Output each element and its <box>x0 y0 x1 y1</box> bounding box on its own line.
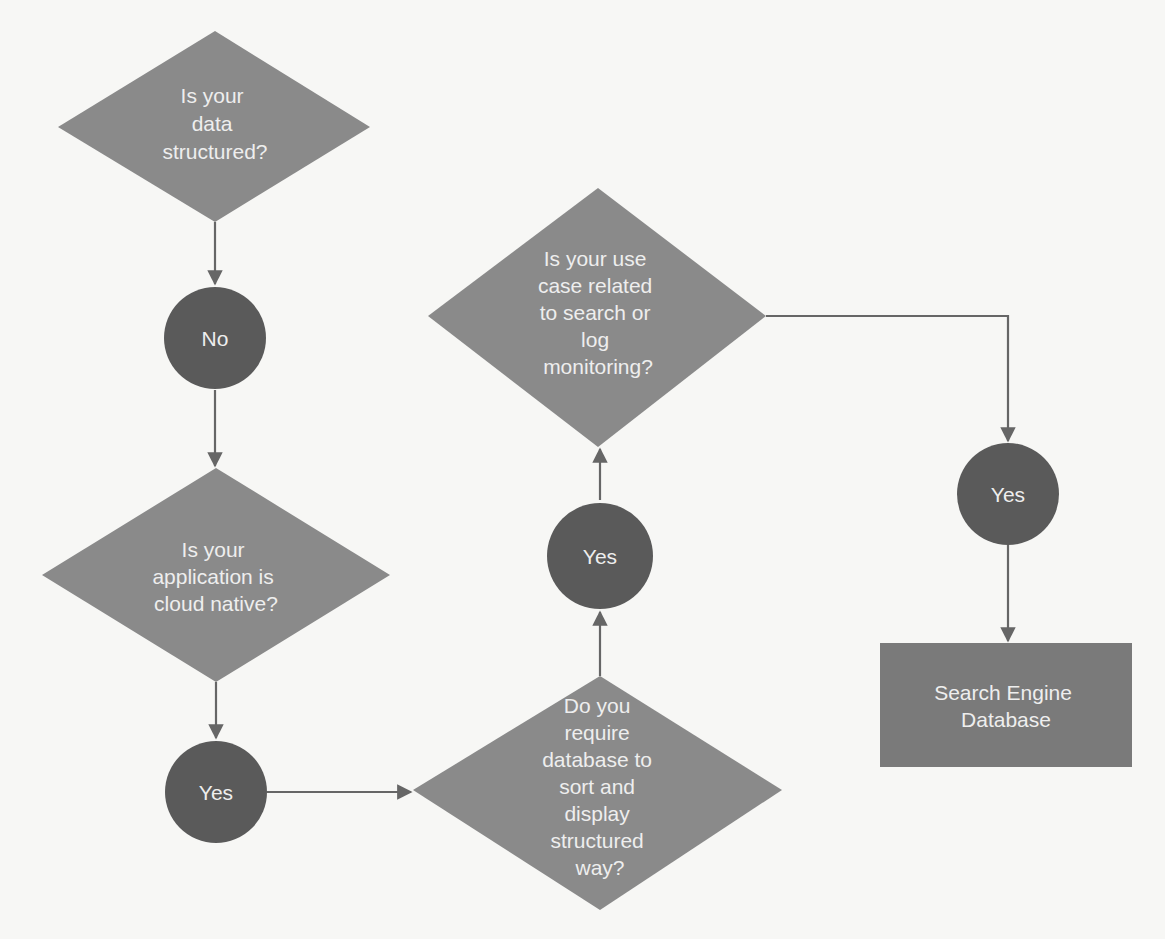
decision-text-line: structured? <box>162 140 267 163</box>
answer-yes-sort-display[interactable]: Yes <box>547 503 653 609</box>
edge-search-to-yes <box>766 316 1008 441</box>
decision-text-line: way? <box>574 856 624 879</box>
answer-label: No <box>202 327 229 350</box>
result-text-line: Database <box>961 708 1051 731</box>
decision-cloud-native[interactable]: Is your application is cloud native? <box>42 468 390 682</box>
decision-text-line: structured <box>550 829 643 852</box>
answer-yes-cloud-native[interactable]: Yes <box>165 741 267 843</box>
decision-text-line: Is your <box>182 538 245 561</box>
answer-label: Yes <box>583 545 617 568</box>
svg-text:Is your use case related: Is your use case related to search or lo… <box>538 247 658 378</box>
decision-data-structured[interactable]: Is your data structured? <box>58 31 370 222</box>
decision-text-line: Is your <box>181 84 244 107</box>
decision-text-line: case related <box>538 274 652 297</box>
result-box <box>880 643 1132 767</box>
decision-sort-display[interactable]: Do you require database to sort and disp… <box>413 676 782 910</box>
decision-text-line: cloud native? <box>154 592 278 615</box>
decision-text-line: sort and <box>559 775 635 798</box>
flowchart: Is your data structured? No Is your appl… <box>0 0 1165 939</box>
answer-yes-search-log[interactable]: Yes <box>957 443 1059 545</box>
decision-text-line: Is your use <box>544 247 647 270</box>
decision-text-line: data <box>192 112 233 135</box>
decision-text-line: log <box>581 328 609 351</box>
decision-text-line: application is <box>152 565 273 588</box>
decision-text-line: Do you <box>564 694 631 717</box>
answer-label: Yes <box>199 781 233 804</box>
answer-no[interactable]: No <box>164 287 266 389</box>
result-search-engine-database[interactable]: Search Engine Database <box>880 643 1132 767</box>
answer-label: Yes <box>991 483 1025 506</box>
decision-text-line: display <box>564 802 630 825</box>
decision-text-line: monitoring? <box>543 355 653 378</box>
decision-text-line: to search or <box>540 301 651 324</box>
result-text-line: Search Engine <box>934 681 1072 704</box>
decision-search-log[interactable]: Is your use case related to search or lo… <box>428 188 766 447</box>
decision-text-line: database to <box>542 748 652 771</box>
decision-text-line: require <box>564 721 629 744</box>
